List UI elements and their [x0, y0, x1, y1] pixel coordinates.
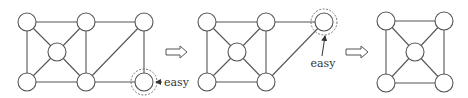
- nodes-layer: [18, 12, 453, 92]
- annotations-layer: easy easy: [164, 57, 336, 89]
- diagram-svg: easy easy: [0, 0, 468, 98]
- pointer-arrow-icon: [322, 36, 325, 56]
- easy-label: easy: [164, 76, 190, 89]
- graph-vertex: [257, 13, 275, 31]
- graph-vertex: [135, 73, 153, 91]
- graph-vertex: [406, 43, 424, 61]
- graph-vertex: [198, 73, 216, 91]
- graph-vertex: [377, 12, 395, 30]
- graph-vertex: [135, 13, 153, 31]
- graph-edge: [266, 22, 324, 82]
- graph-vertex: [18, 13, 36, 31]
- hollow-right-arrow-icon: [166, 46, 187, 58]
- graph-vertex: [377, 74, 395, 92]
- graph-vertex: [257, 73, 275, 91]
- graph-vertex: [77, 13, 95, 31]
- graph-vertex: [77, 73, 95, 91]
- hollow-right-arrow-icon: [346, 46, 368, 58]
- graph-vertex: [18, 73, 36, 91]
- graph-vertex: [435, 74, 453, 92]
- graph-vertex: [198, 13, 216, 31]
- graph-vertex: [315, 13, 333, 31]
- easy-label: easy: [311, 57, 337, 70]
- graph-edge: [86, 22, 144, 82]
- graph-vertex: [48, 43, 66, 61]
- graph-reduction-diagram: easy easy: [0, 0, 468, 98]
- graph-vertex: [228, 43, 246, 61]
- graph-vertex: [435, 12, 453, 30]
